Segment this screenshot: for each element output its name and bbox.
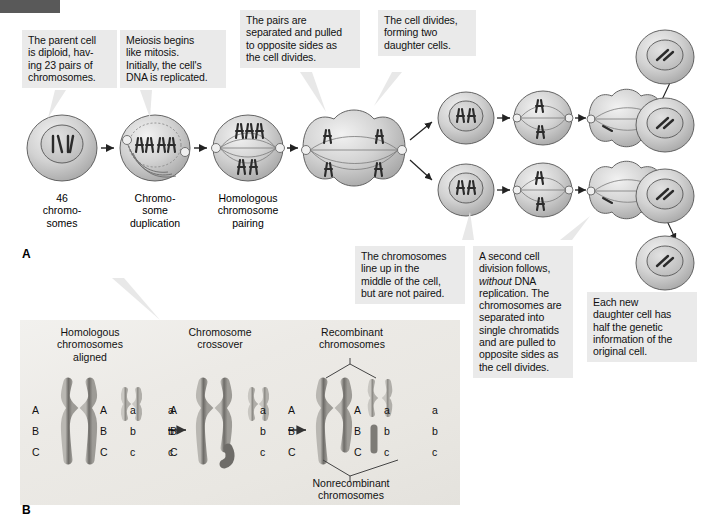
allele-letter: B: [288, 425, 296, 437]
panel-letter-a: A: [22, 247, 31, 261]
callout-parent-cell: The parent cell is diploid, hav- ing 23 …: [22, 30, 117, 88]
callout-line: The chromosomes: [361, 250, 459, 262]
heading-chromosome-crossover: Chromosome crossover: [160, 326, 280, 351]
callout-line: the cell divides.: [479, 361, 567, 373]
meiosis-figure: The parent cell is diploid, hav- ing 23 …: [0, 0, 701, 521]
callout-line: to opposite sides as: [246, 39, 354, 51]
callout-line: half the genetic: [593, 321, 691, 333]
allele-letter: c: [432, 446, 438, 458]
callout-line: division follows,: [479, 262, 567, 274]
callout-line: original cell.: [593, 345, 691, 357]
callout-line: The parent cell: [28, 34, 111, 46]
callout-pairs-separated: The pairs are separated and pulled to op…: [240, 10, 360, 68]
allele-letter: a: [130, 404, 136, 416]
cell-anaphase-one: [302, 110, 407, 186]
callout-line: forming two: [384, 26, 470, 38]
callout-line: Meiosis begins: [126, 34, 220, 46]
callout-line: but are not paired.: [361, 287, 459, 299]
callout-second-division: A second cell division follows, without …: [473, 246, 573, 378]
alleles-stage1-col1: A B C: [32, 404, 40, 458]
italic-word: without: [479, 275, 512, 287]
label-homologous-chromosome-pairing: Homologous chromosome pairing: [196, 192, 300, 229]
callout-line: chromosomes are: [479, 299, 567, 311]
callout-line: chromosomes.: [28, 71, 111, 83]
cell-daughter-top: [438, 92, 494, 144]
cell-homologous-pairing: [212, 115, 285, 181]
callout-line-rest: DNA: [512, 275, 537, 287]
bracket-recombinant: [326, 358, 376, 378]
panel-letter-b: B: [22, 503, 31, 517]
callout-line: Each new: [593, 296, 691, 308]
gamete-1: [636, 30, 694, 84]
gamete-4: [636, 236, 694, 290]
allele-letter: A: [32, 404, 40, 416]
cell-metaphase-two-top: [513, 91, 573, 145]
allele-letter: b: [432, 425, 438, 437]
callout-line: The cell divides,: [384, 14, 470, 26]
callout-line: the cell divides.: [246, 51, 354, 63]
alleles-stage3-col1: A B C: [288, 404, 296, 458]
allele-letter: B: [354, 425, 362, 437]
label-line: Chromo-: [108, 192, 202, 204]
callout-line: middle of the cell,: [361, 275, 459, 287]
allele-letter: A: [170, 404, 178, 416]
heading-recombinant-chromosomes: Recombinant chromosomes: [292, 326, 412, 351]
allele-letter: C: [170, 446, 178, 458]
heading-line: aligned: [30, 351, 150, 363]
stage3-chromosome-pair: [320, 382, 347, 460]
label-line: pairing: [196, 217, 300, 229]
gamete-3: [636, 169, 694, 223]
cell-parent: [27, 115, 97, 181]
cell-daughter-bottom: [438, 164, 494, 216]
label-line: 46: [20, 192, 104, 204]
callout-line: like mitosis.: [126, 46, 220, 58]
cell-duplication: [120, 115, 190, 181]
allele-letter: a: [260, 404, 266, 416]
callout-line: and are pulled to: [479, 336, 567, 348]
allele-letter: b: [130, 425, 136, 437]
callout-cell-divides: The cell divides, forming two daughter c…: [378, 10, 476, 56]
label-line: some: [108, 204, 202, 216]
allele-letter: A: [288, 404, 296, 416]
label-46-chromosomes: 46 chromo- somes: [20, 192, 104, 229]
gamete-2: [636, 98, 694, 152]
stage2-chromosome-pair: [200, 382, 230, 464]
callout-line: opposite sides as: [479, 348, 567, 360]
alleles-stage1-col2: A B C: [100, 404, 108, 458]
callout-line: DNA is replicated.: [126, 71, 220, 83]
callout-line: separated into: [479, 311, 567, 323]
callout-line-italic: without DNA: [479, 275, 567, 287]
alleles-stage3-col4: a b c: [432, 404, 438, 458]
label-line: somes: [20, 217, 104, 229]
label-line: chromo-: [20, 204, 104, 216]
allele-letter: A: [100, 404, 108, 416]
caption-nonrecombinant-chromosomes: Nonrecombinant chromosomes: [290, 477, 412, 502]
callout-line: daughter cells.: [384, 39, 470, 51]
heading-homologous-aligned: Homologous chromosomes aligned: [30, 326, 150, 363]
allele-letter: c: [384, 446, 390, 458]
callout-line: Initially, the cell's: [126, 59, 220, 71]
caption-line: chromosomes: [290, 489, 412, 501]
heading-line: chromosomes: [30, 338, 150, 350]
alleles-stage3-col3: a b c: [384, 404, 390, 458]
stage1-chromosome-pair: [65, 382, 92, 460]
heading-line: Homologous: [30, 326, 150, 338]
callout-line: line up in the: [361, 262, 459, 274]
callout-line: daughter cell has: [593, 308, 691, 320]
heading-line: Recombinant: [292, 326, 412, 338]
allele-letter: a: [432, 404, 438, 416]
allele-letter: C: [354, 446, 362, 458]
label-line: chromosome: [196, 204, 300, 216]
panel-b-plate: Homologous chromosomes aligned Chromosom…: [20, 320, 460, 505]
allele-letter: c: [130, 446, 136, 458]
callout-line: is diploid, hav-: [28, 46, 111, 58]
allele-letter: b: [260, 425, 266, 437]
callout-line: information of the: [593, 333, 691, 345]
label-line: Homologous: [196, 192, 300, 204]
allele-letter: B: [170, 425, 178, 437]
callout-line: A second cell: [479, 250, 567, 262]
allele-letter: c: [260, 446, 266, 458]
cell-metaphase-two-bottom: [513, 163, 573, 217]
allele-letter: B: [32, 425, 40, 437]
label-chromosome-duplication: Chromo- some duplication: [108, 192, 202, 229]
